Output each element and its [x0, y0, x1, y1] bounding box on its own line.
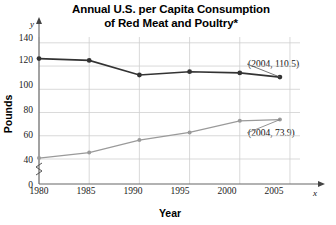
- data-point: [87, 151, 91, 155]
- chart-figure: Annual U.S. per Capita Consumption of Re…: [0, 0, 336, 225]
- data-point: [37, 156, 41, 160]
- data-point: [238, 119, 242, 123]
- data-point: [237, 71, 242, 76]
- y-axis-break-icon: [36, 163, 42, 175]
- x-axis-symbol: x: [312, 188, 317, 198]
- data-point: [188, 130, 192, 134]
- data-point: [187, 69, 192, 74]
- grid-lines: [39, 37, 300, 184]
- y-axis-symbol: y: [29, 19, 34, 29]
- plot-area: yx: [0, 0, 336, 225]
- data-point: [37, 56, 42, 61]
- data-point: [87, 58, 92, 63]
- data-point: [137, 73, 142, 78]
- data-point: [137, 138, 141, 142]
- series-poultry: [37, 118, 282, 161]
- series-red-meat: [37, 56, 283, 79]
